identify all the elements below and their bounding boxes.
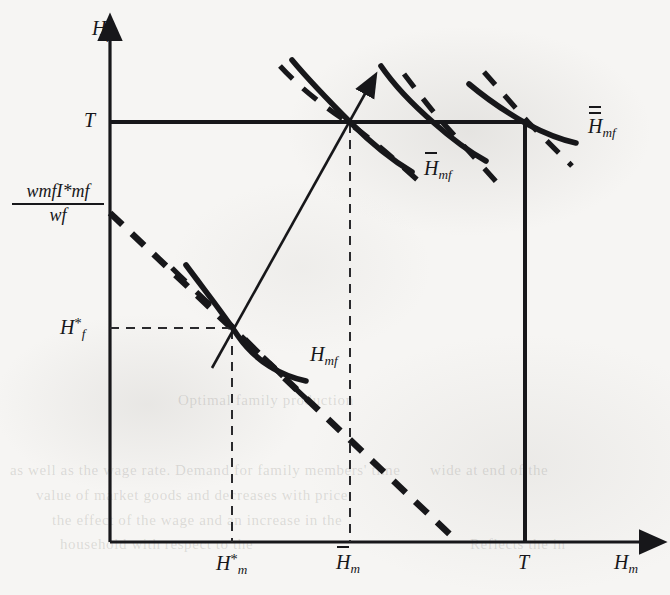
x-tick-label-hm-star: H*m	[216, 552, 247, 576]
indifference-curve-hmf-bar-2-dashed	[404, 74, 500, 186]
curve-label-hmf: Hmf	[310, 344, 338, 367]
curve-label-hmf-bar: Hmf	[424, 158, 452, 181]
indifference-curve-hmf-dblbar-dashed	[484, 72, 572, 166]
x-tick-label-T: T	[518, 552, 529, 572]
curve-label-hmf-double-bar: Hmf	[588, 116, 616, 139]
y-tick-label-T: T	[84, 110, 95, 130]
indifference-curve-hmf-dblbar-solid	[469, 84, 576, 143]
expansion-path-line	[212, 92, 366, 368]
overbar-single: H	[336, 552, 350, 572]
diagram-canvas	[0, 0, 670, 595]
overbar-double: H	[588, 116, 602, 136]
budget-constraint-line	[110, 213, 458, 542]
x-tick-label-hm-bar: Hm	[336, 552, 360, 575]
y-axis-label: Hf	[92, 18, 110, 41]
figure-page: Optimal family production as well as the…	[0, 0, 670, 595]
x-axis-label: Hm	[614, 552, 638, 575]
indifference-curve-hmf-solid	[186, 265, 306, 381]
overbar-single: H	[424, 158, 438, 178]
fraction-denominator: wf	[12, 206, 104, 225]
indifference-curve-hmf-dblbar-group	[469, 72, 576, 166]
y-intercept-fraction-label: wmfI*mf wf	[12, 182, 104, 225]
y-tick-label-hf-star: H*f	[60, 316, 85, 340]
fraction-numerator: wmfI*mf	[12, 182, 104, 201]
time-constraint-frame	[110, 120, 527, 542]
indifference-curve-hmf-bar-2-solid	[381, 66, 486, 161]
